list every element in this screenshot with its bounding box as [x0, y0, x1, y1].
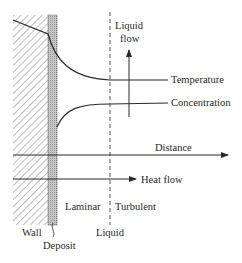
temperature-label: Temperature — [171, 74, 224, 85]
turbulent-label: Turbulent — [115, 201, 156, 212]
distance-label: Distance — [155, 142, 192, 153]
laminar-label: Laminar — [65, 201, 101, 212]
wall-label: Wall — [22, 227, 42, 238]
deposit-label: Deposit — [43, 240, 76, 251]
wall-region — [13, 15, 48, 225]
concentration-curve — [57, 103, 168, 127]
liquid-flow-label-1: Liquid — [115, 20, 144, 31]
liquid-flow-label-2: flow — [120, 33, 140, 44]
heat-flow-label: Heat flow — [141, 174, 183, 185]
concentration-label: Concentration — [171, 97, 231, 108]
deposition-diagram: Liquid flow Temperature Concentration Di… — [0, 0, 242, 263]
liquid-label: Liquid — [96, 227, 125, 238]
